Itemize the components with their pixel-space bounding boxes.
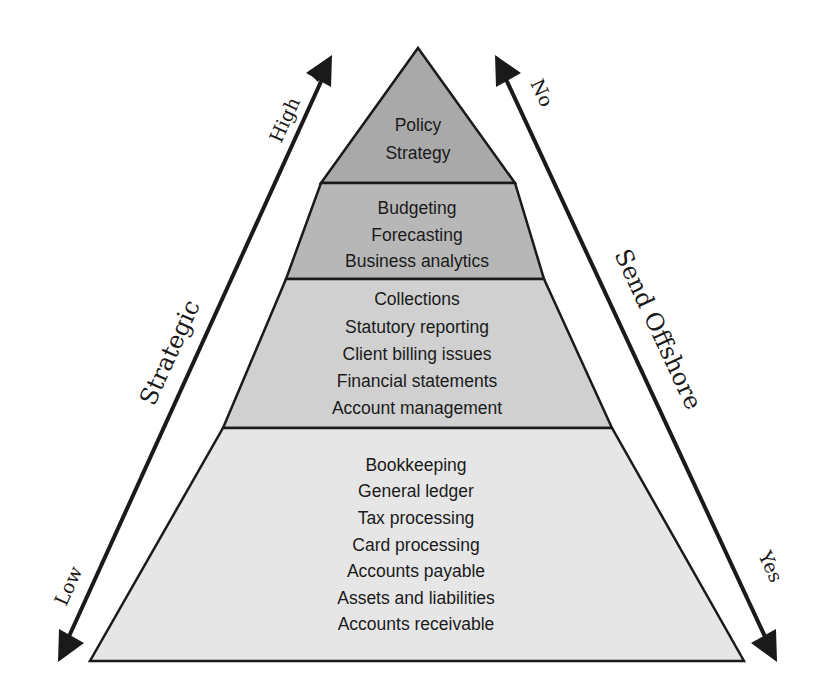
- layer-item: Card processing: [352, 535, 479, 555]
- layer-item: Budgeting: [378, 198, 457, 218]
- layer-item: Financial statements: [337, 371, 498, 391]
- send-offshore-axis-no-label: No: [526, 75, 558, 110]
- send-offshore-axis-yes-label: Yes: [754, 546, 788, 585]
- layer-item: General ledger: [358, 481, 474, 501]
- offshore-pyramid-diagram: Policy Strategy Budgeting Forecasting Bu…: [0, 0, 820, 699]
- layer-item: Policy: [395, 115, 442, 135]
- layer-item: Collections: [374, 289, 460, 309]
- layer-bottom-labels: Bookkeeping General ledger Tax processin…: [337, 455, 495, 634]
- layer-item: Strategy: [385, 143, 450, 163]
- layer-item: Assets and liabilities: [337, 588, 495, 608]
- layer-item: Forecasting: [371, 225, 462, 245]
- layer-item: Statutory reporting: [345, 317, 489, 337]
- layer-item: Bookkeeping: [365, 455, 466, 475]
- layer-item: Tax processing: [358, 508, 475, 528]
- strategic-axis-title: Strategic: [134, 296, 206, 410]
- strategic-axis-low-label: Low: [50, 562, 87, 608]
- layer-item: Accounts payable: [347, 561, 485, 581]
- layer-item: Client billing issues: [343, 344, 492, 364]
- layer-item: Accounts receivable: [338, 614, 495, 634]
- strategic-axis-high-label: High: [265, 94, 304, 146]
- layer-item: Business analytics: [345, 251, 489, 271]
- layer-item: Account management: [332, 398, 502, 418]
